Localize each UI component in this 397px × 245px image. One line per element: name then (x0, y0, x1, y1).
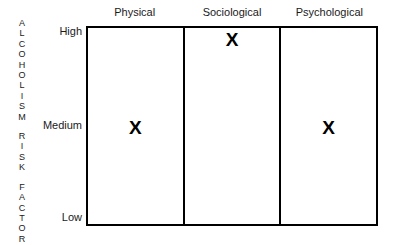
column-psychological: X (279, 28, 376, 224)
marker-sociological: X (226, 30, 239, 49)
column-header-physical: Physical (86, 6, 183, 24)
y-axis-tick-labels: High Medium Low (0, 0, 82, 245)
column-header-psychological: Psychological (281, 6, 378, 24)
column-sociological: X (183, 28, 280, 224)
column-header-sociological: Sociological (183, 6, 280, 24)
y-tick-medium: Medium (43, 119, 82, 131)
marker-physical: X (129, 118, 142, 137)
matrix-plot-box: X X X (86, 26, 378, 226)
alcoholism-risk-factor-matrix: A L C O H O L I S M R I S K F A C T O R … (0, 0, 397, 245)
column-physical: X (88, 28, 183, 224)
y-tick-high: High (59, 25, 82, 37)
marker-psychological: X (322, 118, 335, 137)
column-headers: Physical Sociological Psychological (86, 6, 378, 24)
y-tick-low: Low (62, 211, 82, 223)
